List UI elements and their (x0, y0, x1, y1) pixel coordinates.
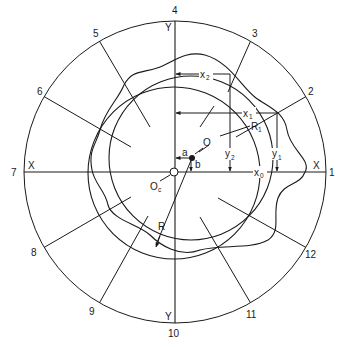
x0-label: x 0 (253, 166, 267, 179)
a-label: a (182, 147, 188, 158)
svg-text:1: 1 (258, 126, 262, 133)
y-axis-label-top: Y (165, 22, 172, 33)
svg-text:c: c (158, 186, 162, 193)
spoke-number-8: 8 (31, 247, 37, 258)
spoke-number-2: 2 (308, 86, 314, 97)
b-label: b (195, 159, 201, 170)
spoke-number-12: 12 (305, 249, 317, 260)
spoke-number-4: 4 (172, 5, 178, 16)
svg-text:x: x (243, 108, 248, 119)
y2-label: y 2 (224, 148, 237, 161)
spoke-number-10: 10 (168, 328, 180, 339)
O-label: O (203, 137, 211, 148)
svg-text:x: x (200, 69, 205, 80)
svg-text:0: 0 (260, 172, 264, 179)
spoke-number-5: 5 (93, 28, 99, 39)
spoke-number-6: 6 (37, 86, 43, 97)
svg-text:1: 1 (278, 154, 282, 161)
y-axis-label-bottom: Y (165, 311, 172, 322)
Oc-label: O c (150, 181, 162, 193)
x-axis-label-left: X (28, 160, 35, 171)
svg-text:2: 2 (206, 74, 210, 81)
spoke-number-9: 9 (89, 306, 95, 317)
spoke-number-7: 7 (11, 167, 17, 178)
spoke-number-3: 3 (252, 28, 258, 39)
center-Oc (170, 168, 178, 176)
R-label: R (158, 221, 165, 232)
svg-text:2: 2 (231, 154, 235, 161)
y1-label: y 1 (271, 148, 284, 161)
x1-label: x 1 (242, 107, 256, 120)
spoke-number-1: 1 (329, 167, 335, 178)
svg-text:y: y (225, 148, 230, 159)
svg-text:1: 1 (249, 113, 253, 120)
spoke-number-11: 11 (246, 309, 257, 320)
x-axis-label-right: X (313, 160, 320, 171)
svg-text:O: O (150, 181, 158, 192)
svg-text:x: x (254, 167, 259, 178)
roundness-diagram: 1 2 3 4 5 6 7 8 9 10 11 12 X X Y Y x 2 x… (0, 0, 343, 347)
svg-text:y: y (272, 148, 277, 159)
x2-label: x 2 (199, 68, 213, 81)
